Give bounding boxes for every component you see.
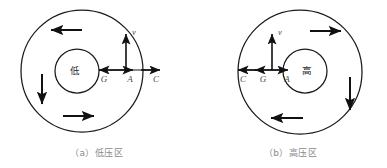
panel-a-label-v: v bbox=[132, 27, 136, 37]
panel-a-label-C: C bbox=[153, 74, 160, 84]
panel-b-group: 高 C G A v bbox=[238, 10, 362, 134]
panel-b-label-G: G bbox=[260, 74, 267, 84]
figure-root: 低 G A C v 高 bbox=[0, 0, 387, 168]
panel-a-label-A: A bbox=[126, 74, 133, 84]
panel-b-label-A: A bbox=[283, 74, 290, 84]
panel-b-label-v: v bbox=[278, 27, 282, 37]
panel-b-caption: （b）高压区 bbox=[194, 146, 387, 159]
diagram-canvas: 低 G A C v 高 bbox=[0, 0, 387, 168]
panel-b-label-C: C bbox=[240, 74, 247, 84]
panel-a-caption: （a）低压区 bbox=[0, 146, 193, 159]
panel-a-label-G: G bbox=[101, 74, 108, 84]
panel-a-outer-circle bbox=[21, 10, 143, 132]
panel-b-center-label: 高 bbox=[302, 65, 312, 76]
panel-b-outer-circle bbox=[238, 10, 362, 134]
panel-a-group: 低 G A C v bbox=[21, 10, 160, 132]
panel-a-center-label: 低 bbox=[70, 65, 80, 76]
